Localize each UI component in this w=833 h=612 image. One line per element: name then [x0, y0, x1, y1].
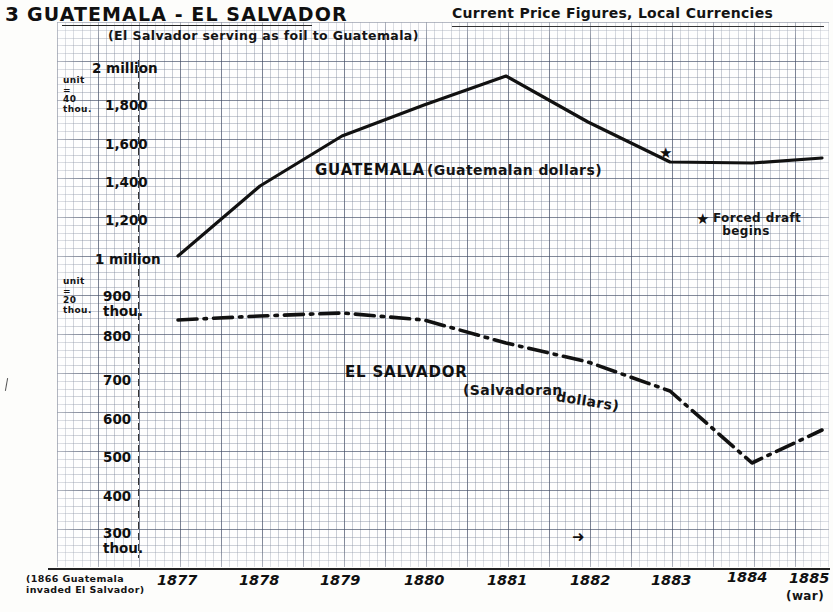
x-tick-1883: 1883	[651, 572, 691, 588]
series-label-el-salvador: EL SALVADOR	[345, 363, 468, 381]
upper-unit-annotation: unit = 40 thou.	[63, 76, 92, 114]
series-label-guatemala: GUATEMALA	[315, 161, 425, 179]
forced-draft-legend-star: ★	[696, 212, 709, 227]
y-tick-upper-0: 2 million	[92, 60, 158, 76]
x-tick-1885: 1885	[789, 570, 829, 586]
y-tick-upper-5: 1 million	[95, 251, 161, 267]
y-tick-lower-5: 400	[103, 488, 131, 504]
y-tick-upper-4: 1,200	[105, 212, 148, 228]
x-tick-1879: 1879	[320, 572, 360, 588]
y-tick-lower-2: 700	[103, 372, 131, 388]
margin-tick-mark	[5, 378, 9, 391]
forced-draft-star-marker: ★	[659, 146, 672, 161]
y-tick-lower-6: 300 thou.	[103, 526, 143, 556]
y-tick-lower-3: 600	[103, 411, 131, 427]
x-tick-1878: 1878	[239, 572, 279, 588]
war-note: (war)	[786, 589, 824, 603]
forced-draft-annotation: Forced draft begins	[713, 212, 801, 238]
y-tick-lower-0: 900 thou.	[103, 289, 143, 319]
x-tick-1884: 1884	[727, 569, 767, 585]
series-currency-el-salvador: (Salvadoran	[463, 382, 563, 398]
x-tick-1881: 1881	[487, 572, 527, 588]
y-tick-lower-1: 800	[103, 328, 131, 344]
y-tick-upper-3: 1,400	[105, 174, 148, 190]
x-tick-1882: 1882	[570, 572, 610, 588]
x-tick-1877: 1877	[157, 572, 197, 588]
origin-note: (1866 Guatemala invaded El Salvador)	[26, 573, 145, 595]
series-currency-guatemala: (Guatemalan dollars)	[427, 162, 602, 178]
y-tick-lower-4: 500	[103, 449, 131, 465]
page-number: 3	[5, 2, 19, 26]
x-axis-line	[48, 568, 830, 570]
x-tick-1880: 1880	[404, 572, 444, 588]
page-title: GUATEMALA - EL SALVADOR	[27, 3, 348, 25]
chart-note-current-prices: Current Price Figures, Local Currencies	[452, 5, 773, 21]
notebook-page: 3 GUATEMALA - EL SALVADOR (El Salvador s…	[0, 0, 833, 612]
title-underline	[62, 25, 312, 26]
y-tick-upper-1: 1,800	[105, 97, 148, 113]
page-subtitle: (El Salvador serving as foil to Guatemal…	[108, 28, 419, 43]
lower-unit-annotation: unit = 20 thou.	[63, 277, 92, 315]
ink-blot-mark: ➜	[572, 528, 585, 546]
graph-paper-grid	[57, 22, 829, 567]
y-tick-upper-2: 1,600	[105, 136, 148, 152]
top-right-underline	[452, 26, 824, 27]
